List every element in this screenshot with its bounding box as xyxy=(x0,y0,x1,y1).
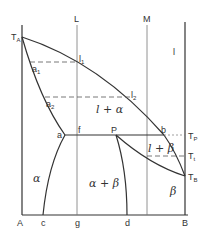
label-B: B xyxy=(182,218,188,228)
label-d: d xyxy=(125,218,130,228)
label-M: M xyxy=(143,14,151,24)
label-TP: TP xyxy=(188,131,198,142)
region-alpha: α xyxy=(33,172,41,185)
label-l1: l1 xyxy=(79,54,85,65)
label-TB: TB xyxy=(188,172,198,183)
label-b: b xyxy=(161,125,166,135)
solvus-beta xyxy=(116,135,127,215)
region-alpha-beta: α + β xyxy=(89,177,119,190)
label-g: g xyxy=(75,218,80,228)
label-l2: l2 xyxy=(131,90,137,101)
label-a: a xyxy=(57,130,62,140)
region-liquid: l xyxy=(173,47,175,57)
label-f: f xyxy=(78,125,81,135)
label-L: L xyxy=(74,14,79,24)
liquidus-alpha xyxy=(22,37,164,135)
label-Tt: Tt xyxy=(188,151,196,162)
label-P: P xyxy=(111,125,117,135)
phase-diagram: L M TA TB TP Tt a1 a2 l1 l2 a f P b A c … xyxy=(0,0,222,237)
solvus-alpha xyxy=(43,135,65,215)
label-TA: TA xyxy=(11,32,21,43)
region-beta: β xyxy=(169,185,176,198)
label-c: c xyxy=(41,218,46,228)
label-a2: a2 xyxy=(46,99,55,110)
label-A: A xyxy=(17,218,23,228)
label-a1: a1 xyxy=(32,64,41,75)
region-liquid-beta: l + β xyxy=(148,142,174,155)
region-liquid-alpha: l + α xyxy=(96,103,124,116)
